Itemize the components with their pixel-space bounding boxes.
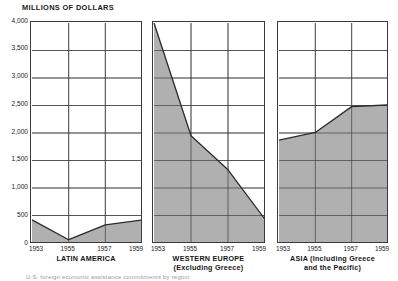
y-axis-tick-label: 0 [2, 240, 28, 247]
plot-area-latin-america [30, 21, 142, 243]
plot-area-western-europe [152, 21, 265, 243]
panel-caption-western-europe: WESTERN EUROPE(Excluding Greece) [173, 255, 245, 272]
figure-footnote: U.S. foreign economic assistance commitm… [26, 274, 190, 281]
x-axis-tick-label: 1953 [29, 246, 43, 252]
panel-caption-asia: ASIA (Including Greeceand the Pacific) [290, 255, 375, 272]
y-axis-tick-label: 1,000 [2, 184, 28, 191]
y-axis-tick-label: 2,000 [2, 129, 28, 136]
plot-area-asia [277, 21, 388, 243]
y-axis-tick-label: 3,000 [2, 73, 28, 80]
x-axis-tick-label: 1957 [97, 246, 111, 252]
y-axis-tick-label: 1,500 [2, 156, 28, 163]
area-fill-asia [279, 105, 388, 243]
y-axis-tick-label: 3,500 [2, 45, 28, 52]
x-axis-tick-label: 1957 [220, 246, 234, 252]
y-axis-tick-label: 500 [2, 212, 28, 219]
area-chart-figure: MILLIONS OF DOLLARS 4,0003,5003,0002,500… [0, 0, 398, 281]
y-axis: 4,0003,5003,0002,5002,0001,5001,0005000 [0, 0, 28, 281]
area-fill-latin-america [32, 220, 142, 243]
x-axis-tick-label: 1955 [307, 246, 321, 252]
x-axis-tick-label: 1953 [151, 246, 165, 252]
plot-canvas-latin-america [31, 22, 142, 243]
plot-canvas-western-europe [153, 22, 265, 243]
x-axis-tick-label: 1955 [61, 246, 75, 252]
plot-canvas-asia [278, 22, 388, 243]
panel-caption-line: (Excluding Greece) [173, 264, 245, 273]
panel-caption-line: LATIN AMERICA [56, 255, 115, 264]
y-axis-tick-label: 2,500 [2, 101, 28, 108]
x-axis-tick-label: 1953 [276, 246, 290, 252]
x-axis-tick-label: 1957 [344, 246, 358, 252]
x-axis-tick-label: 1955 [183, 246, 197, 252]
panel-caption-latin-america: LATIN AMERICA [56, 255, 115, 264]
x-axis-tick-label: 1959 [129, 246, 143, 252]
x-axis-tick-label: 1959 [252, 246, 266, 252]
y-axis-tick-label: 4,000 [2, 18, 28, 25]
panel-caption-line: and the Pacific) [290, 264, 375, 273]
chart-axis-unit-title: MILLIONS OF DOLLARS [22, 3, 114, 12]
x-axis-tick-label: 1959 [375, 246, 389, 252]
